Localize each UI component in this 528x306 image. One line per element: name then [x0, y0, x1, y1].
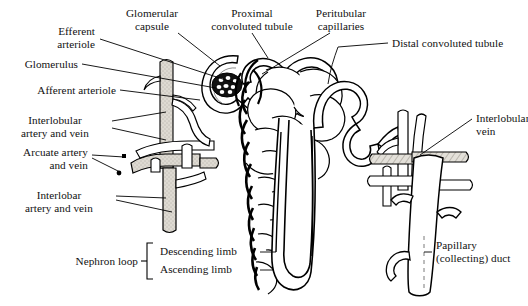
label-interlobular-vein: Interlobular vein: [476, 112, 528, 137]
label-efferent-arteriole: Efferent arteriole: [5, 25, 95, 50]
label-interlobular-artery-and-vein: Interlobular artery and vein: [2, 114, 108, 139]
renal-vessel-stub-b: [200, 158, 219, 168]
label-glomerulus: Glomerulus: [0, 58, 78, 71]
label-arcuate-artery-and-vein: Arcuate artery and vein: [0, 146, 88, 171]
label-ascending-limb: Ascending limb: [160, 263, 260, 276]
ascending-limb: [312, 136, 313, 256]
renal-vessel-cut-end: [151, 158, 160, 172]
label-afferent-arteriole: Afferent arteriole: [0, 84, 116, 97]
label-glomerular-capsule: Glomerular capsule: [114, 7, 190, 32]
label-proximal-convoluted-tubule: Proximal convoluted tubule: [196, 7, 308, 32]
label-papillary-collecting-duct: Papillary (collecting) duct: [436, 239, 528, 264]
label-nephron-loop: Nephron loop: [56, 255, 138, 268]
label-distal-convoluted-tubule: Distal convoluted tubule: [392, 37, 528, 50]
label-peritubular-capillaries: Peritubular capillaries: [296, 7, 386, 32]
interlobar-vessel-trunk: [163, 168, 176, 233]
label-descending-limb: Descending limb: [160, 245, 260, 258]
renal-vessel-stub-a: [182, 144, 192, 168]
figure-canvas: Efferent arteriole Glomerular capsule Pr…: [0, 0, 528, 306]
label-interlobar-artery-and-vein: Interlobar artery and vein: [6, 189, 112, 214]
